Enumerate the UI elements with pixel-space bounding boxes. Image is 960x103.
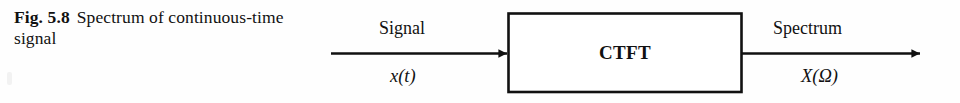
ctft-block-label: CTFT: [508, 13, 742, 92]
input-arrow-label-signal: Signal: [379, 19, 425, 37]
input-arrow-label-xt: x(t): [390, 67, 416, 86]
output-arrow-label-xomega: X(Ω): [801, 67, 838, 86]
diagram-canvas: [0, 0, 960, 103]
block-diagram: CTFT Signal x(t) Spectrum X(Ω): [0, 0, 960, 103]
output-arrow-label-spectrum: Spectrum: [773, 19, 842, 37]
figure-container: Fig. 5.8Spectrum of continuous-time sign…: [0, 0, 960, 103]
